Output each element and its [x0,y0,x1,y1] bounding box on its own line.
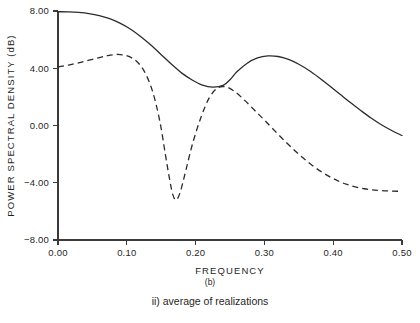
y-tick-label: 0.00 [30,120,49,131]
psd-chart: −8.00−4.000.004.008.000.000.100.200.300.… [5,5,412,307]
series-line-dashed [58,54,402,200]
y-tick-label: 8.00 [30,5,49,16]
y-tick-label: −4.00 [24,177,49,188]
x-tick-label: 0.20 [186,247,205,258]
figure-caption: ii) average of realizations [152,295,269,307]
x-axis-title: FREQUENCY [195,265,265,276]
x-tick-label: 0.00 [48,247,67,258]
x-tick-label: 0.40 [324,247,343,258]
figure-panel-b: −8.00−4.000.004.008.000.000.100.200.300.… [0,0,420,323]
panel-label: (b) [205,277,216,287]
y-tick-label: 4.00 [30,63,49,74]
x-tick-label: 0.10 [117,247,136,258]
x-tick-label: 0.50 [392,247,411,258]
x-tick-label: 0.30 [255,247,274,258]
series-line-solid [58,12,402,136]
y-tick-label: −8.00 [24,234,49,245]
y-axis-title: POWER SPECTRAL DENSITY (dB) [5,34,16,216]
